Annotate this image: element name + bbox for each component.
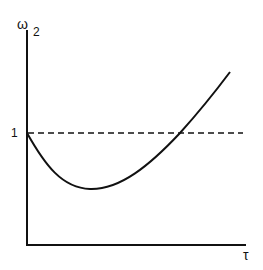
tick-label-one: 1 — [11, 127, 18, 139]
diagram-canvas — [0, 0, 263, 270]
omega-squared-curve — [27, 72, 230, 189]
y-axis-label: ω — [17, 17, 28, 31]
x-axis-label: τ — [243, 248, 249, 262]
y-axis-superscript: 2 — [33, 26, 40, 38]
